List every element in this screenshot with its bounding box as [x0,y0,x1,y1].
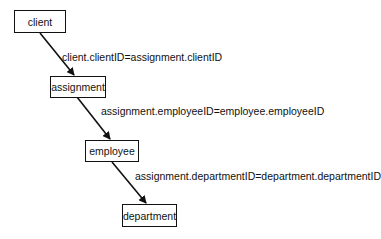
node-label: client [28,16,53,28]
edge-label-employee-department: assignment.departmentID=department.depar… [135,170,381,182]
node-assignment: assignment [50,76,106,98]
node-label: assignment [51,81,105,93]
node-employee: employee [85,140,139,162]
node-department: department [122,204,177,227]
node-label: department [123,210,176,222]
node-label: employee [89,145,135,157]
node-client: client [14,10,66,33]
edge-employee-department [112,162,146,203]
edge-assignment-employee [77,97,110,139]
edge-label-assignment-employee: assignment.employeeID=employee.employeeI… [101,105,324,117]
edge-label-client-assignment: client.clientID=assignment.clientID [62,51,222,63]
